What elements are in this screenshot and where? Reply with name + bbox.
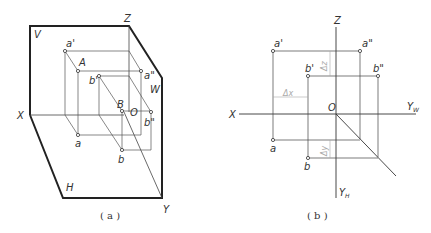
point-a xyxy=(271,138,274,141)
caption-a: ( a ) xyxy=(100,210,120,221)
label-A: A xyxy=(78,57,86,68)
label-X: X xyxy=(228,109,237,120)
projection-diagram: V Z W X H Y O a' A a" a b' B b" b ( a ) xyxy=(0,0,431,233)
label-b: b xyxy=(304,161,310,172)
points xyxy=(63,49,152,151)
point-A xyxy=(76,69,79,72)
dim-dz: Δz xyxy=(320,61,329,72)
label-O: O xyxy=(328,102,336,113)
label-b: b xyxy=(118,154,124,165)
point-a-prime xyxy=(271,49,274,52)
point-a xyxy=(76,133,79,136)
caption-b: ( b ) xyxy=(307,210,328,221)
point-a-dprime xyxy=(358,49,361,52)
point-b-prime xyxy=(306,74,309,77)
label-Y: Y xyxy=(163,204,170,215)
label-b-prime: b' xyxy=(89,75,98,86)
label-a-dprime: a" xyxy=(362,38,373,49)
label-O: O xyxy=(130,107,138,118)
point-b xyxy=(120,148,123,151)
plane-outline xyxy=(30,26,162,198)
point-b-dprime xyxy=(149,110,152,113)
label-a: a xyxy=(270,143,276,154)
label-b-dprime: b" xyxy=(373,63,384,74)
point-a-prime xyxy=(63,49,66,52)
dim-dx: Δx xyxy=(282,89,293,98)
point-b-dprime xyxy=(376,74,379,77)
figure-a: V Z W X H Y O a' A a" a b' B b" b ( a ) xyxy=(16,13,170,221)
label-Z: Z xyxy=(333,15,342,26)
label-Z: Z xyxy=(123,13,132,24)
label-YW: YW xyxy=(407,101,420,113)
dim-dy: Δy xyxy=(320,146,329,157)
label-B: B xyxy=(117,99,124,110)
axis-lines xyxy=(30,26,162,198)
label-W: W xyxy=(150,84,161,95)
label-V: V xyxy=(34,29,42,40)
label-a-dprime: a" xyxy=(144,70,155,81)
label-b-dprime: b" xyxy=(144,117,155,128)
label-H: H xyxy=(66,182,74,193)
figure-b: Δx Δz Δy Z X O YW YH a' a" b' b" a b ( b… xyxy=(228,15,420,221)
point-b xyxy=(306,156,309,159)
label-YH: YH xyxy=(339,187,350,199)
label-a-prime: a' xyxy=(66,38,75,49)
label-a-prime: a' xyxy=(274,38,283,49)
label-b-prime: b' xyxy=(305,63,314,74)
label-a: a xyxy=(75,138,81,149)
label-X: X xyxy=(16,110,25,121)
point-a-dprime xyxy=(139,69,142,72)
